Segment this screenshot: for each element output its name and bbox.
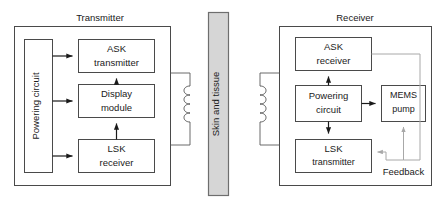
rx-ask-receiver-label-line1: ASK bbox=[324, 41, 344, 52]
tx-coil-lead-bottom bbox=[171, 122, 191, 145]
block-diagram: Transmitter Powering circuit ASK transmi… bbox=[0, 0, 446, 206]
tx-powering-circuit-label: Powering circuit bbox=[30, 72, 41, 139]
tx-lsk-receiver-label-line1: LSK bbox=[108, 143, 127, 154]
rx-lsk-transmitter-label-line1: LSK bbox=[325, 143, 344, 154]
rx-powering-circuit-label-line2: circuit bbox=[316, 104, 341, 115]
rx-lsk-transmitter-label-line2: transmitter bbox=[312, 157, 355, 167]
rx-secondary-coil-icon bbox=[260, 86, 266, 122]
tx-primary-coil-icon bbox=[184, 86, 190, 122]
tx-display-module-label-line2: module bbox=[101, 102, 132, 113]
tx-ask-transmitter-label-line2: transmitter bbox=[94, 57, 139, 68]
rx-feedback-branch-left bbox=[386, 152, 404, 160]
skin-tissue-label: Skin and tissue bbox=[210, 72, 221, 136]
rx-coil-lead-top bbox=[260, 73, 280, 86]
rx-ask-receiver-label-line2: receiver bbox=[317, 55, 351, 66]
diagram-canvas: Transmitter Powering circuit ASK transmi… bbox=[0, 0, 446, 206]
tx-display-module-label-line1: Display bbox=[101, 88, 132, 99]
tx-coil-lead-top bbox=[171, 73, 191, 86]
rx-feedback-label: Feedback bbox=[383, 166, 425, 177]
rx-powering-circuit-label-line1: Powering bbox=[309, 90, 349, 101]
tx-lsk-receiver-label-line2: receiver bbox=[100, 157, 134, 168]
rx-mems-pump-label-line2: pump bbox=[392, 104, 415, 114]
rx-mems-pump-label-line1: MEMS bbox=[390, 90, 417, 100]
receiver-group: Receiver ASK receiver Powering circuit M… bbox=[260, 12, 432, 186]
tx-ask-transmitter-label-line1: ASK bbox=[107, 43, 127, 54]
rx-coil-lead-bottom bbox=[260, 122, 280, 145]
skin-tissue-group: Skin and tissue bbox=[209, 13, 229, 196]
transmitter-group: Transmitter Powering circuit ASK transmi… bbox=[15, 12, 191, 186]
receiver-title: Receiver bbox=[336, 12, 374, 23]
transmitter-title: Transmitter bbox=[76, 12, 124, 23]
